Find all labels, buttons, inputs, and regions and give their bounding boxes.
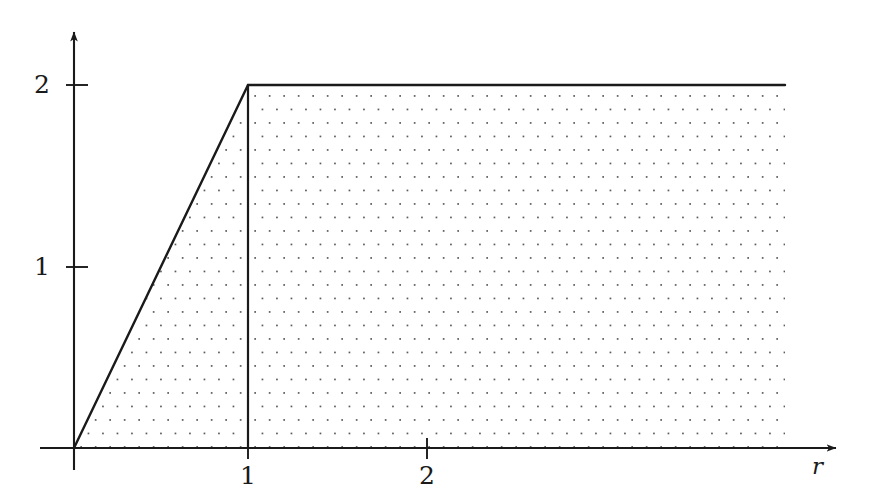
x-axis-name-label: r	[812, 455, 823, 478]
x-tick-label-2: 2	[413, 463, 441, 488]
shaded-region	[74, 85, 785, 448]
y-tick-label-2: 2	[24, 72, 50, 97]
x-tick-label-1: 1	[234, 463, 262, 488]
y-tick-label-1: 1	[24, 254, 50, 279]
figure-canvas: 2 1 1 2 r	[0, 0, 886, 502]
plot-area	[0, 0, 886, 502]
